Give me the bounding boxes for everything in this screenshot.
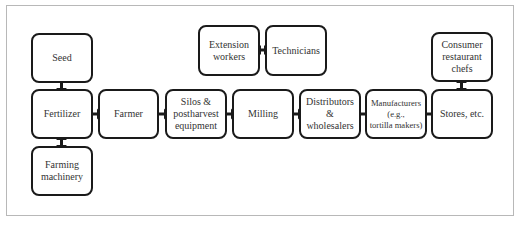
node-extension-workers: Extension workers bbox=[198, 25, 260, 76]
node-farmer: Farmer bbox=[98, 89, 159, 139]
node-seed: Seed bbox=[31, 33, 93, 83]
node-milling: Milling bbox=[232, 89, 294, 139]
node-silos-postharvest: Silos & postharvest equipment bbox=[165, 89, 227, 139]
node-technicians: Technicians bbox=[265, 25, 327, 76]
node-stores: Stores, etc. bbox=[431, 89, 493, 139]
node-distributors-wholesalers: Distributors & wholesalers bbox=[299, 89, 361, 139]
node-fertilizer: Fertilizer bbox=[31, 89, 93, 139]
node-farming-machinery: Farming machinery bbox=[31, 146, 93, 196]
node-manufacturers: Manufacturers (e.g., tortilla makers) bbox=[365, 89, 427, 139]
node-consumer-restaurant-chefs: Consumer restaurant chefs bbox=[431, 32, 493, 82]
